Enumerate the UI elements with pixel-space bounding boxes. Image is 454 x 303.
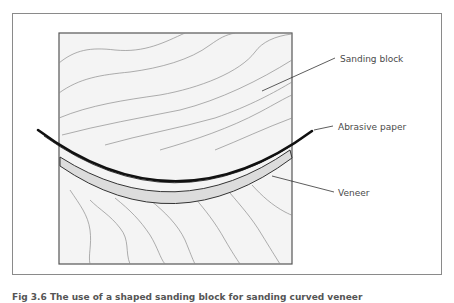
sanding-block — [59, 33, 292, 264]
label-veneer: Veneer — [338, 188, 370, 198]
label-abrasive-paper: Abrasive paper — [338, 122, 406, 132]
label-sanding-block: Sanding block — [340, 54, 404, 64]
figure-caption: Fig 3.6 The use of a shaped sanding bloc… — [12, 291, 362, 303]
